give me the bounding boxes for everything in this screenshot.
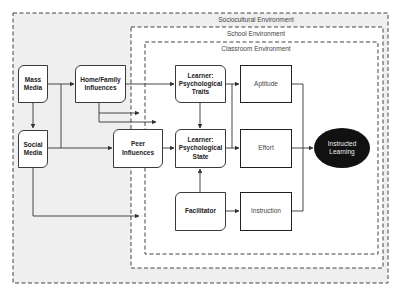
- learner-psychological-state-node: Learner:PsychologicalState: [175, 129, 226, 168]
- sociocultural-environment-label: Sociocultural Environment: [218, 16, 294, 23]
- aptitude-node: Aptitude: [240, 65, 292, 103]
- instructed-learning-node: InstructedLearning: [314, 128, 370, 168]
- classroom-environment-label: Classroom Environment: [221, 45, 290, 52]
- home-family-influences-node: Home/FamilyInfluences: [75, 65, 126, 103]
- instruction-node: Instruction: [240, 192, 292, 231]
- effort-node: Effort: [240, 129, 292, 168]
- learner-psychological-traits-node: Learner:PsychologicalTraits: [175, 65, 226, 103]
- mass-media-node: MassMedia: [18, 65, 48, 103]
- peer-influences-node: PeerInfluences: [113, 129, 163, 168]
- diagram-canvas: Sociocultural Environment School Environ…: [0, 0, 399, 297]
- school-environment-label: School Environment: [227, 30, 285, 37]
- social-media-node: SocialMedia: [18, 130, 48, 168]
- facilitator-node: Facilitator: [175, 192, 226, 231]
